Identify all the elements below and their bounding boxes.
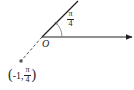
theta-numerator: π [25,66,29,74]
theta-denominator: 4 [26,76,30,84]
point-label: ( -1 , π 4 ) [8,66,36,84]
origin-label: O [42,39,49,49]
angle-denominator: 4 [69,20,73,28]
dashed-extension [21,37,42,61]
angle-numerator: π [68,10,72,18]
angle-label: π 4 [67,10,74,28]
point-r-value: -1 [13,70,21,81]
point-dot [19,59,22,62]
point-theta: π 4 [24,66,31,84]
close-paren: ) [32,68,37,82]
